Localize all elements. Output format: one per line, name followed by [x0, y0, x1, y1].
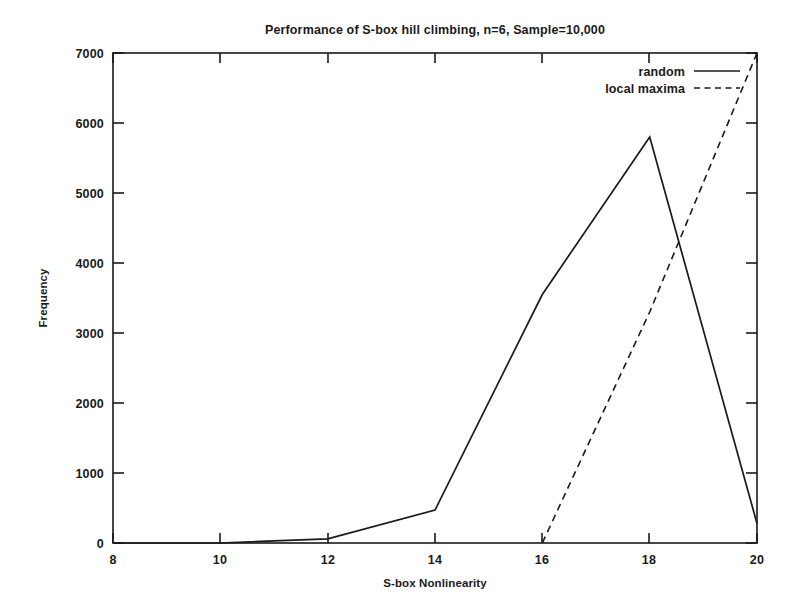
chart-figure: Performance of S-box hill climbing, n=6,…	[0, 0, 794, 600]
x-tick-label: 14	[428, 553, 442, 567]
x-tick-labels: 8 10 12 14 16 18 20	[109, 553, 764, 567]
y-axis-ticks	[113, 53, 757, 543]
x-tick-label: 12	[321, 553, 335, 567]
chart-title: Performance of S-box hill climbing, n=6,…	[265, 23, 605, 37]
x-tick-label: 18	[642, 553, 656, 567]
legend-label-random: random	[639, 65, 685, 79]
x-tick-label: 8	[109, 553, 116, 567]
y-tick-label: 7000	[75, 47, 104, 61]
legend-label-local-maxima: local maxima	[605, 82, 686, 96]
x-tick-label: 16	[535, 553, 549, 567]
x-axis-ticks	[113, 53, 757, 543]
y-tick-label: 1000	[75, 467, 104, 481]
y-axis-label: Frequency	[37, 268, 49, 328]
chart-legend: random local maxima	[605, 65, 740, 96]
y-tick-label: 0	[97, 537, 104, 551]
y-tick-label: 2000	[75, 397, 104, 411]
series-line-local-maxima	[542, 53, 757, 543]
series-line-random	[113, 137, 757, 543]
x-axis-label: S-box Nonlinearity	[383, 577, 487, 589]
y-tick-label: 5000	[75, 187, 104, 201]
y-tick-label: 6000	[75, 117, 104, 131]
x-tick-label: 20	[750, 553, 764, 567]
plot-frame	[113, 53, 757, 543]
line-chart: Performance of S-box hill climbing, n=6,…	[0, 0, 794, 600]
x-tick-label: 10	[213, 553, 227, 567]
y-tick-label: 3000	[75, 327, 104, 341]
y-tick-label: 4000	[75, 257, 104, 271]
y-tick-labels: 0 1000 2000 3000 4000 5000 6000 7000	[75, 47, 104, 551]
